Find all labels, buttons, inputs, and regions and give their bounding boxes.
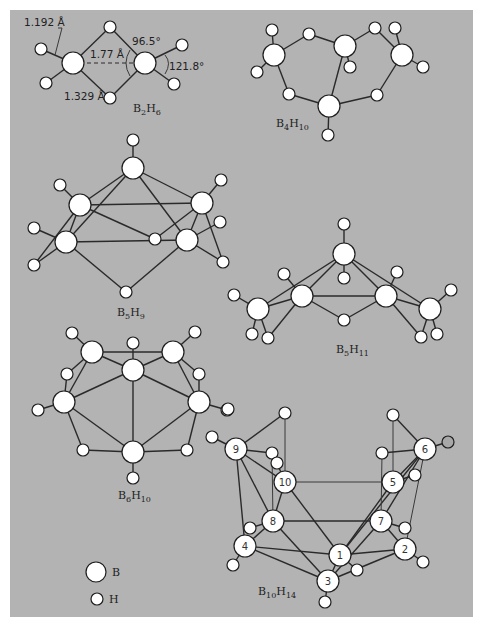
boron-7: 7: [370, 510, 392, 532]
formula-b2h6: B2H6: [133, 102, 161, 117]
bond-angle-terminal: 121.8°: [169, 60, 204, 72]
boron-8: 8: [262, 510, 284, 532]
legend-boron-icon: [86, 562, 106, 582]
bond-length-terminal: 1.192 Å: [24, 16, 65, 28]
svg-text:8: 8: [270, 516, 276, 527]
formula-b6h10: B6H10: [118, 489, 151, 504]
borane-structures-diagram: 1.192 Å 1.77 Å 96.5° 121.8° 1.329 Å B2H6: [0, 0, 486, 627]
legend-hydrogen-label: H: [109, 593, 119, 606]
formula-b4h10: B4H10: [276, 117, 309, 132]
svg-text:4: 4: [242, 541, 248, 552]
molecule-b5h9: B5H9: [28, 134, 229, 321]
molecule-b5h11: B5H11: [228, 218, 457, 358]
boron-6: 6: [414, 438, 436, 460]
legend: B H: [86, 562, 120, 606]
molecule-b10h14: 1 2 3 4 5 6 7 8 9 10 B10H14: [206, 403, 454, 608]
bond-angle-bridge: 96.5°: [132, 35, 161, 47]
boron-5: 5: [382, 471, 404, 493]
boron-3: 3: [317, 570, 339, 592]
svg-text:2: 2: [402, 544, 408, 555]
boron-9: 9: [225, 438, 247, 460]
boron-2: 2: [394, 538, 416, 560]
legend-boron-label: B: [112, 566, 120, 579]
formula-b5h11: B5H11: [336, 343, 369, 358]
svg-text:10: 10: [279, 477, 292, 488]
bond-length-bb: 1.77 Å: [90, 48, 125, 60]
legend-hydrogen-icon: [91, 593, 103, 605]
formula-b5h9: B5H9: [117, 306, 145, 321]
boron-4: 4: [234, 535, 256, 557]
svg-text:3: 3: [325, 576, 331, 587]
molecule-b2h6: 1.192 Å 1.77 Å 96.5° 121.8° 1.329 Å B2H6: [24, 16, 204, 117]
bond-length-bridge: 1.329 Å: [64, 90, 105, 102]
boron-1: 1: [329, 544, 351, 566]
svg-text:7: 7: [378, 516, 384, 527]
svg-text:9: 9: [233, 444, 239, 455]
boron-10: 10: [274, 471, 296, 493]
svg-text:1: 1: [337, 550, 343, 561]
svg-text:5: 5: [390, 477, 396, 488]
formula-b10h14: B10H14: [258, 585, 296, 600]
molecule-b4h10: B4H10: [251, 22, 429, 141]
svg-text:6: 6: [422, 444, 428, 455]
molecule-b6h10: B6H10: [32, 326, 233, 504]
